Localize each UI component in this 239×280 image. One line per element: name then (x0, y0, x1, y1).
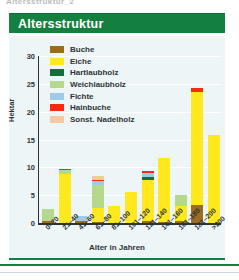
y-tick-label: 20 (27, 107, 35, 116)
x-axis-line (38, 223, 221, 225)
legend-swatch-icon (50, 69, 64, 76)
bar-segment (175, 195, 187, 207)
legend-swatch-icon (50, 93, 64, 100)
y-tick-label: 10 (27, 163, 35, 172)
bar-segment (59, 174, 71, 223)
chart-panel: Hektar 051015202530 0–2021–4041–6061–808… (9, 36, 225, 260)
legend-item: Hartlaubholz (50, 67, 134, 79)
legend-label: Buche (70, 45, 94, 54)
legend-label: Hainbuche (70, 103, 111, 112)
chart-page: Altersstruktur_2 Altersstruktur Hektar 0… (0, 0, 239, 280)
y-tick-label: 30 (27, 52, 35, 61)
legend-item: Hainbuche (50, 102, 134, 114)
y-tick-label: 25 (27, 79, 35, 88)
y-axis-label: Hektar (7, 99, 16, 122)
legend-item: Eiche (50, 56, 134, 68)
bar[interactable] (191, 88, 203, 223)
bar[interactable] (59, 169, 71, 223)
y-tick-label: 5 (31, 191, 35, 200)
legend-label: Fichte (70, 92, 94, 101)
bottom-rule-grey (0, 272, 239, 273)
legend-label: Eiche (70, 57, 91, 66)
legend-item: Buche (50, 44, 134, 56)
legend-label: Sonst. Nadelholz (70, 115, 134, 124)
legend-swatch-icon (50, 58, 64, 65)
legend: BucheEicheHartlaubholzWeichlaubholzFicht… (50, 44, 134, 125)
legend-item: Sonst. Nadelholz (50, 114, 134, 126)
bar-segment (191, 92, 203, 206)
legend-swatch-icon (50, 104, 64, 111)
bar-segment (92, 185, 104, 208)
y-tick-label: 15 (27, 135, 35, 144)
legend-item: Fichte (50, 90, 134, 102)
cut-off-caption: Altersstruktur_2 (6, 0, 74, 5)
legend-swatch-icon (50, 81, 64, 88)
legend-item: Weichlaubholz (50, 79, 134, 91)
y-tick-label: 0 (31, 219, 35, 228)
legend-swatch-icon (50, 116, 64, 123)
title-banner: Altersstruktur (9, 13, 225, 33)
bottom-rule-green (0, 264, 239, 266)
x-axis-label: Alter in Jahren (9, 243, 225, 252)
legend-swatch-icon (50, 46, 64, 53)
legend-label: Hartlaubholz (70, 68, 118, 77)
y-axis-line (38, 56, 39, 224)
legend-label: Weichlaubholz (70, 80, 126, 89)
page-title: Altersstruktur (18, 17, 103, 31)
